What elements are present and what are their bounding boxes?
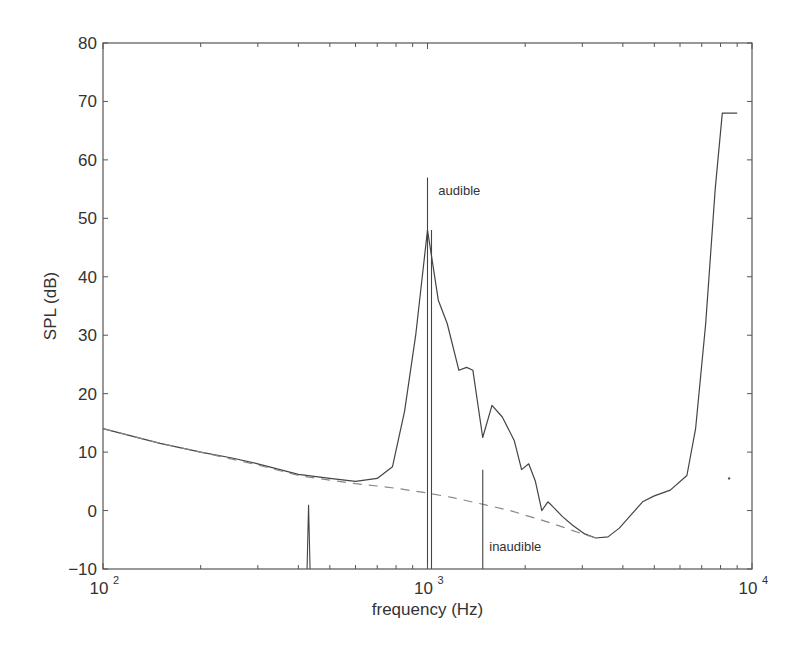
annotation-inaudible: inaudible <box>489 539 541 554</box>
x-tick-exponent: 4 <box>762 574 768 586</box>
series-layer <box>103 113 737 538</box>
annotation-audible: audible <box>438 183 480 198</box>
annotations: audibleinaudible <box>438 183 730 555</box>
y-tick-label: −10 <box>68 560 97 579</box>
masked-threshold-line <box>103 113 737 538</box>
y-tick-label: 60 <box>78 151 97 170</box>
tone-spike <box>307 505 310 569</box>
y-tick-label: 10 <box>78 443 97 462</box>
y-tick-label: 80 <box>78 34 97 53</box>
y-tick-label: 50 <box>78 209 97 228</box>
threshold-in-quiet-line <box>103 429 596 538</box>
y-tick-label: 0 <box>88 502 97 521</box>
tones-layer <box>307 177 483 569</box>
stray-dot <box>728 477 730 479</box>
y-tick-label: 20 <box>78 385 97 404</box>
x-tick-exponent: 2 <box>113 574 119 586</box>
x-tick-label: 10 <box>90 579 109 598</box>
y-tick-label: 40 <box>78 268 97 287</box>
x-axis-label: frequency (Hz) <box>372 600 483 619</box>
y-tick-label: 30 <box>78 326 97 345</box>
y-tick-label: 70 <box>78 92 97 111</box>
spl-chart: 80706050403020100−10102103104 frequency … <box>0 0 800 656</box>
x-tick-label: 10 <box>739 579 758 598</box>
x-tick-exponent: 3 <box>438 574 444 586</box>
y-axis-label: SPL (dB) <box>41 272 60 340</box>
x-tick-label: 10 <box>414 579 433 598</box>
